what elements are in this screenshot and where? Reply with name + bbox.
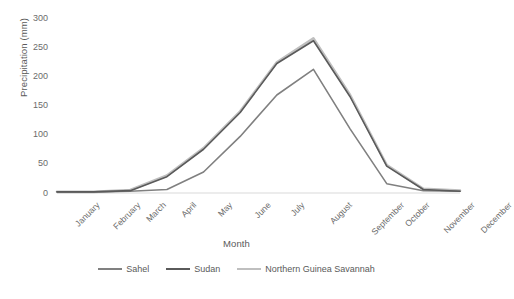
- chart-legend: SahelSudanNorthern Guinea Savannah: [0, 264, 473, 274]
- y-axis-tick-0: 0: [14, 189, 48, 198]
- legend-swatch-icon: [166, 268, 190, 271]
- y-axis-tick-150: 150: [14, 101, 48, 110]
- legend-label: Sudan: [194, 264, 220, 274]
- y-axis-tick-200: 200: [14, 72, 48, 81]
- legend-swatch-icon: [237, 268, 261, 270]
- legend-swatch-icon: [98, 268, 122, 270]
- x-axis-tick-december: December: [479, 200, 514, 235]
- legend-item-sudan[interactable]: Sudan: [166, 264, 220, 274]
- y-axis-tick-300: 300: [14, 14, 48, 23]
- legend-item-sahel[interactable]: Sahel: [98, 264, 149, 274]
- x-axis-title: Month: [0, 238, 473, 249]
- y-axis-tick-50: 50: [14, 159, 48, 168]
- legend-item-northern-guinea-savannah[interactable]: Northern Guinea Savannah: [237, 264, 375, 274]
- legend-label: Northern Guinea Savannah: [265, 264, 375, 274]
- legend-label: Sahel: [126, 264, 149, 274]
- y-axis-tick-100: 100: [14, 130, 48, 139]
- y-axis-tick-250: 250: [14, 43, 48, 52]
